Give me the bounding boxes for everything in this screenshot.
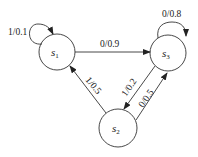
transition-s1-s3: 0/0.9 [75,39,150,52]
svg-text:s3: s3 [162,47,170,61]
state-s2: s2 [99,109,137,147]
transition-label: 1/0.5 [83,75,103,96]
transition-label: 0/0.9 [100,39,120,49]
transition-label: 0/0.5 [136,87,155,109]
transition-label: 1/0.2 [119,76,138,98]
state-diagram: s1 s3 s2 1/0.1 0/0.9 0/0.8 1/0.5 1/0.2 0… [0,0,198,157]
svg-text:s1: s1 [51,46,59,60]
state-s1: s1 [39,34,75,70]
transition-s2-s1: 1/0.5 [70,66,106,113]
transition-s3-s3: 0/0.8 [158,9,186,38]
svg-text:s2: s2 [112,122,120,136]
state-s3: s3 [150,35,186,71]
transition-label: 1/0.1 [8,27,28,37]
transition-s2-s3: 0/0.5 [136,73,167,120]
transition-s1-s1: 1/0.1 [8,24,53,44]
transition-label: 0/0.8 [162,9,182,19]
